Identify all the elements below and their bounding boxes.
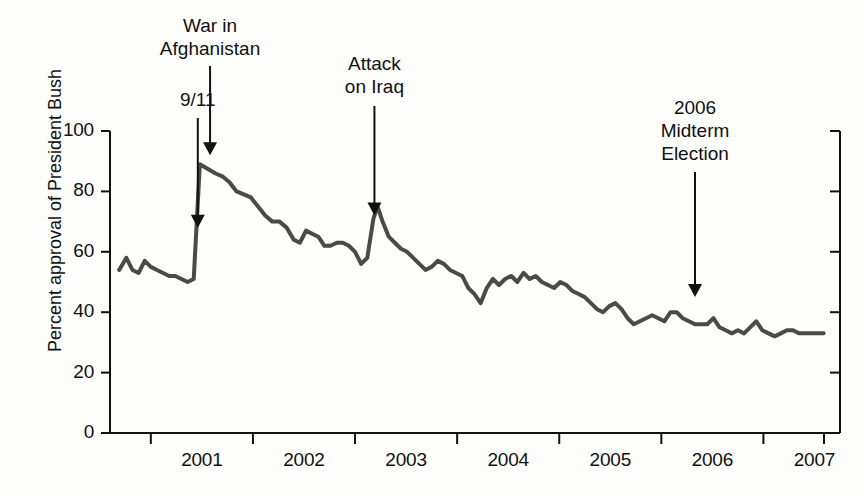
x-tick-label: 2004 (458, 449, 558, 471)
x-tick-label: 2005 (560, 449, 660, 471)
annotation-line: Midterm (585, 119, 805, 142)
annotation-line: War in (100, 14, 320, 37)
y-tick-label: 0 (34, 421, 94, 443)
y-tick-label: 100 (34, 119, 94, 141)
x-tick-label: 2007 (764, 449, 864, 471)
approval-line-series (119, 164, 823, 336)
approval-rating-chart: Percent approval of President Bush 02040… (0, 0, 864, 496)
annotation-midterm-election: 2006MidtermElection (585, 96, 805, 165)
x-tick-label: 2006 (662, 449, 762, 471)
x-tick-label: 2003 (356, 449, 456, 471)
annotation-line: Election (585, 142, 805, 165)
x-tick-label: 2002 (254, 449, 354, 471)
y-tick-label: 20 (34, 361, 94, 383)
x-tick-label: 2001 (152, 449, 252, 471)
annotation-line: 2006 (585, 96, 805, 119)
y-tick-label: 60 (34, 240, 94, 262)
annotation-line: on Iraq (264, 75, 484, 98)
y-tick-label: 40 (34, 300, 94, 322)
annotation-line: Attack (264, 52, 484, 75)
annotation-attack-on-iraq: Attackon Iraq (264, 52, 484, 98)
y-tick-label: 80 (34, 179, 94, 201)
